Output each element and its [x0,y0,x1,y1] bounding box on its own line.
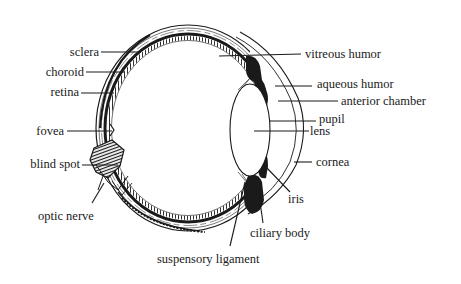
leader-suspensory-ligament [230,182,245,246]
label-blind-spot: blind spot [30,157,80,171]
labels: sclera choroid retina fovea blind spot o… [30,45,427,266]
label-suspensory-ligament: suspensory ligament [157,252,260,266]
label-retina: retina [51,85,80,99]
eye-anatomy-diagram: sclera choroid retina fovea blind spot o… [0,0,461,284]
label-vitreous-humor: vitreous humor [305,47,382,61]
lens-shape [230,84,270,176]
label-fovea: fovea [36,124,64,138]
label-lens: lens [310,124,330,138]
label-sclera: sclera [70,45,100,59]
leader-optic-nerve [92,183,104,203]
label-optic-nerve: optic nerve [38,209,94,223]
label-anterior-chamber: anterior chamber [341,94,427,108]
label-ciliary-body: ciliary body [250,226,311,240]
label-aqueous-humor: aqueous humor [317,77,395,91]
label-choroid: choroid [46,65,85,79]
fovea-dip [110,124,114,136]
label-iris: iris [288,192,304,206]
label-cornea: cornea [316,155,350,169]
leader-iris [266,167,290,192]
